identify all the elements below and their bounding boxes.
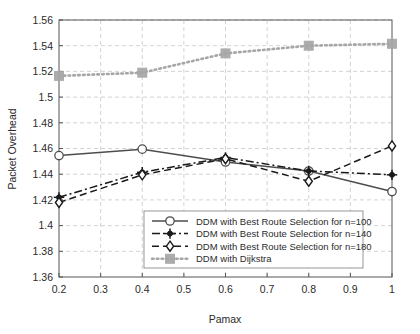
chart-legend: DDM with Best Route Selection for n=100D…	[144, 211, 372, 268]
x-tick-label: 0.3	[93, 283, 108, 295]
chart-figure: 1.361.381.41.421.441.461.481.51.521.541.…	[0, 0, 420, 334]
y-axis-title: Packet Overhead	[6, 108, 18, 189]
y-tick-label: 1.4	[38, 219, 53, 231]
legend-label: DDM with Best Route Selection for n=100	[196, 216, 372, 227]
packet-overhead-line-chart: 1.361.381.41.421.441.461.481.51.521.541.…	[0, 0, 420, 334]
data-point-square	[166, 254, 175, 263]
y-tick-label: 1.56	[33, 14, 54, 26]
x-tick-label: 0.9	[343, 283, 358, 295]
data-point-circle	[166, 217, 174, 225]
y-tick-label: 1.54	[33, 40, 54, 52]
data-point-square	[55, 71, 64, 80]
data-point-circle	[55, 151, 63, 159]
y-tick-label: 1.38	[33, 245, 54, 257]
legend-label: DDM with Dijkstra	[196, 253, 272, 264]
x-tick-label: 0.4	[135, 283, 150, 295]
data-point-square	[388, 39, 397, 48]
x-tick-label: 0.8	[301, 283, 316, 295]
data-point-square	[138, 68, 147, 77]
x-tick-label: 0.7	[260, 283, 275, 295]
y-tick-label: 1.52	[33, 65, 54, 77]
data-point-square	[304, 41, 313, 50]
legend-item[interactable]: DDM with Dijkstra	[152, 253, 272, 264]
x-axis-title: Pamax	[209, 313, 242, 325]
y-tick-label: 1.44	[33, 168, 54, 180]
y-tick-label: 1.46	[33, 142, 54, 154]
x-tick-label: 0.6	[218, 283, 233, 295]
data-point-circle	[138, 145, 146, 153]
x-axis-tick-labels: 0.20.30.40.50.60.70.80.91	[52, 283, 395, 295]
data-point-square	[221, 49, 230, 58]
y-tick-label: 1.48	[33, 117, 54, 129]
x-tick-label: 1	[389, 283, 395, 295]
y-tick-label: 1.42	[33, 194, 54, 206]
x-tick-label: 0.2	[52, 283, 67, 295]
y-tick-label: 1.5	[38, 91, 53, 103]
x-tick-label: 0.5	[177, 283, 192, 295]
legend-label: DDM with Best Route Selection for n=180	[196, 241, 372, 252]
y-tick-label: 1.36	[33, 271, 54, 283]
legend-label: DDM with Best Route Selection for n=140	[196, 228, 372, 239]
data-point-circle	[388, 187, 396, 195]
